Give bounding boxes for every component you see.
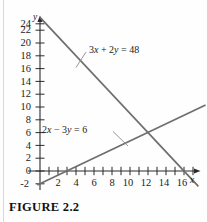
equation-label-2x-3y-6: 2x − 3y = 6	[42, 124, 87, 135]
x-tick-label-8: 8	[104, 178, 120, 189]
x-tick-label-14: 14	[156, 178, 172, 189]
y-tick-label-18: 18	[9, 51, 31, 62]
y-tick-label-0: 0	[9, 166, 31, 177]
figure-container: y x 24 22 20 18 16 14 12 10 8 6 4 2 0 -2…	[0, 0, 207, 222]
y-tick-label-10: 10	[9, 102, 31, 113]
x-axis-label: x	[190, 175, 194, 185]
x-tick-label-6: 6	[86, 178, 102, 189]
y-tick-label-6: 6	[9, 128, 31, 139]
equation-label-3x-2y-48: 3x + 2y = 48	[89, 44, 139, 55]
x-tick-label-16: 16	[174, 178, 190, 189]
x-tick-label-12: 12	[138, 178, 154, 189]
y-tick-label-14: 14	[9, 77, 31, 88]
x-tick-label-10: 10	[120, 178, 136, 189]
y-tick-label-8: 8	[9, 115, 31, 126]
equation-text-2: 2x − 3y = 6	[42, 124, 87, 135]
figure-caption: FIGURE 2.2	[9, 200, 79, 215]
equation-text-1: 3x + 2y = 48	[89, 44, 139, 55]
y-tick-label-12: 12	[9, 89, 31, 100]
y-tick-label-16: 16	[9, 64, 31, 75]
x-axis-arrowhead	[194, 169, 201, 174]
x-tick-label-2: 2	[50, 178, 66, 189]
leader-line-series-2	[113, 132, 128, 147]
y-axis-label: y	[33, 12, 37, 22]
y-tick-label-22: 22	[9, 25, 31, 36]
y-tick-label-neg2: -2	[7, 179, 29, 190]
plot-canvas	[0, 0, 207, 198]
x-tick-label-4: 4	[68, 178, 84, 189]
line-3x-2y-48	[40, 17, 198, 186]
y-tick-label-2: 2	[9, 153, 31, 164]
y-tick-label-4: 4	[9, 141, 31, 152]
y-tick-label-20: 20	[9, 38, 31, 49]
